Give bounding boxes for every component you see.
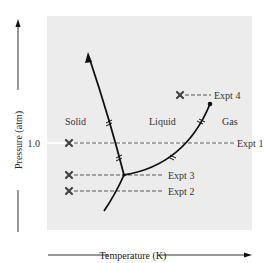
region-liquid-label: Liquid xyxy=(149,116,176,127)
x-axis-label: Temperature (K) xyxy=(100,250,167,262)
phase-diagram: Pressure (atm) Temperature (K) 1.0 Solid… xyxy=(0,0,264,263)
arrow-up-icon xyxy=(16,19,21,27)
y-axis-label: Pressure (atm) xyxy=(13,111,25,169)
expt-1-label: Expt 1 xyxy=(237,138,263,149)
expt-2-label: Expt 2 xyxy=(168,186,194,197)
region-solid-label: Solid xyxy=(65,116,86,127)
region-gas-label: Gas xyxy=(222,116,238,127)
expt-4-label: Expt 4 xyxy=(214,90,240,101)
critical-point xyxy=(208,102,213,107)
arrow-right-icon xyxy=(244,253,252,258)
triple-point xyxy=(122,173,125,176)
expt-3-label: Expt 3 xyxy=(168,170,194,181)
y-tick-label: 1.0 xyxy=(28,138,41,149)
